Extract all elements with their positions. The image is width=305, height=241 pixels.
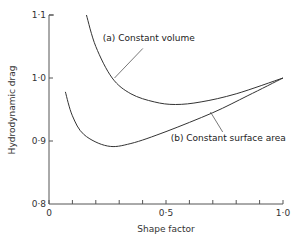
y-axis-label: Hydrodynamic drag (7, 66, 17, 155)
annotation-constant-surface-area: (b) Constant surface area (171, 133, 286, 143)
leader-line (115, 48, 143, 78)
annotation-constant-volume: (a) Constant volume (103, 33, 196, 43)
x-tick-label: 0·5 (159, 208, 173, 218)
x-tick-label: 0 (46, 208, 52, 218)
curve-constant-volume (86, 15, 283, 105)
x-tick-label: 1·0 (276, 208, 291, 218)
leader-line (210, 112, 222, 132)
annotations: (a) Constant volume(b) Constant surface … (103, 33, 286, 143)
y-tick-label: 0·8 (32, 199, 47, 209)
y-tick-label: 0·9 (32, 136, 47, 146)
y-tick-label: 1·1 (32, 10, 46, 20)
y-tick-label: 1·0 (32, 73, 47, 83)
hydrodynamic-drag-chart: 00·51·00·80·91·01·1 (a) Constant volume(… (0, 0, 305, 241)
x-axis-label: Shape factor (137, 224, 195, 234)
